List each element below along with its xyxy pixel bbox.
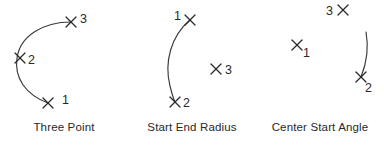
start-end-radius-diagram: 1 2 3	[128, 0, 256, 118]
center-start-angle-diagram: 3 1 2	[256, 0, 384, 118]
point-label-1: 1	[62, 93, 69, 107]
point-marker-3	[211, 64, 221, 74]
point-label-3: 3	[326, 4, 333, 18]
point-label-2: 2	[183, 96, 190, 110]
point-label-2: 2	[365, 81, 372, 95]
point-label-1: 1	[303, 46, 310, 60]
panel-center-start-angle: 3 1 2 Center Start Angle	[256, 0, 384, 146]
panel-start-end-radius: 1 2 3 Start End Radius	[128, 0, 256, 146]
panel-three-point: 1 2 3 Three Point	[0, 0, 128, 146]
three-point-diagram: 1 2 3	[0, 0, 128, 118]
point-marker-2	[170, 97, 180, 107]
point-label-3: 3	[80, 12, 87, 26]
panel-caption-center-start-angle: Center Start Angle	[256, 120, 384, 134]
point-marker-3	[338, 5, 348, 15]
arc-curve	[168, 20, 190, 102]
point-label-2: 2	[28, 53, 35, 67]
point-marker-1	[185, 15, 195, 25]
arc-curve	[361, 32, 367, 77]
arc-methods-figure: 1 2 3 Three Point 1	[0, 0, 384, 146]
point-marker-1	[292, 40, 302, 50]
point-marker-1	[43, 98, 53, 108]
panel-caption-start-end-radius: Start End Radius	[128, 120, 256, 134]
panel-caption-three-point: Three Point	[0, 120, 128, 134]
point-label-3: 3	[225, 63, 232, 77]
point-label-1: 1	[174, 9, 181, 23]
